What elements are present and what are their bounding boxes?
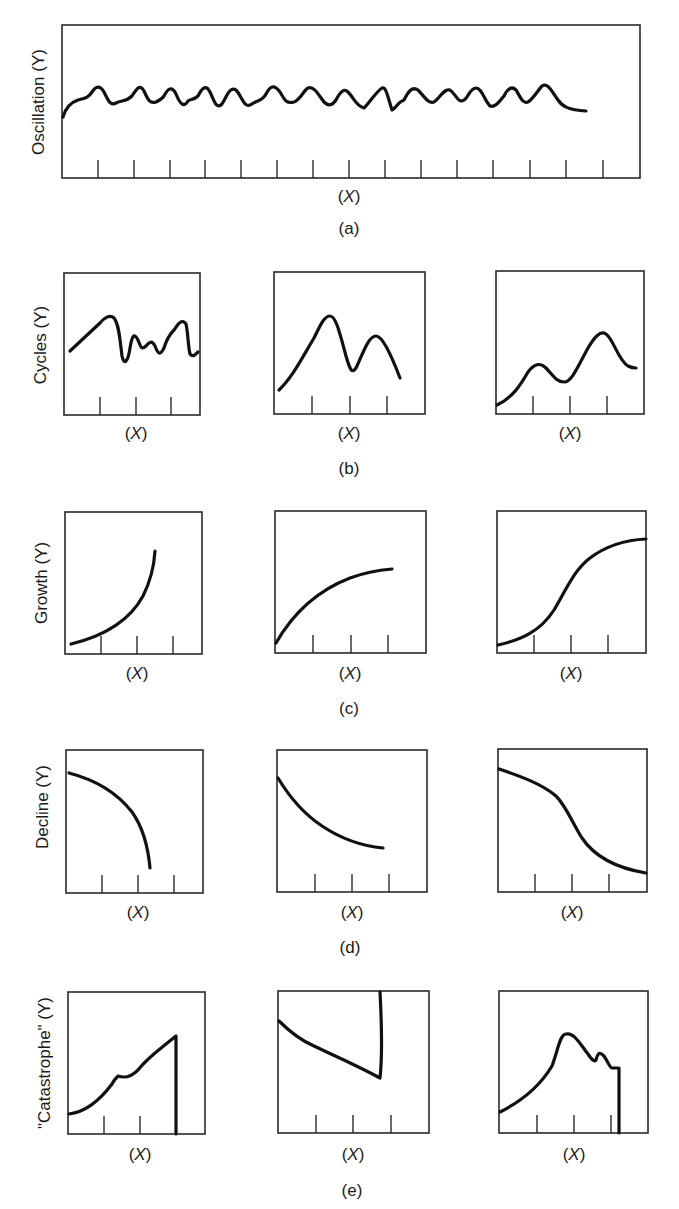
plot-frame bbox=[275, 511, 426, 653]
plot-frame bbox=[68, 992, 205, 1134]
panel-c1-exponential-growth bbox=[65, 512, 202, 654]
oscillation-curve bbox=[63, 85, 586, 117]
y-axis-label-cycles: Cycles (Y) bbox=[31, 306, 50, 384]
row-b: Cycles (Y) (X) (X) (X) (b) bbox=[31, 271, 644, 478]
row-d: Decline (Y) (X) (X) (X) (d) bbox=[33, 749, 647, 957]
plot-frame bbox=[499, 991, 648, 1133]
row-c: Growth (Y) (X) (X) (X) (c) bbox=[32, 511, 646, 718]
x-axis-label: (X) bbox=[560, 664, 583, 683]
cycles-curve-2 bbox=[279, 316, 400, 390]
plot-frame bbox=[496, 271, 644, 414]
plot-frame bbox=[278, 991, 429, 1133]
x-axis-label: (X) bbox=[338, 187, 361, 206]
x-ticks bbox=[98, 160, 603, 178]
row-e: "Catastrophe" (Y) (X) (X) (X) (e) bbox=[35, 991, 648, 1200]
y-axis-label-growth: Growth (Y) bbox=[32, 542, 51, 624]
x-axis-label: (X) bbox=[338, 424, 361, 443]
x-axis-label: (X) bbox=[341, 903, 364, 922]
catastrophe-curve-1 bbox=[69, 1036, 176, 1134]
panel-d3-s-curve-decline bbox=[498, 749, 647, 892]
caption-b: (b) bbox=[339, 459, 360, 478]
panel-b3-two-peaks-rising bbox=[496, 271, 644, 414]
cycles-curve-3 bbox=[497, 333, 636, 405]
panel-d2-decelerating-decline bbox=[277, 750, 427, 892]
caption-d: (d) bbox=[340, 938, 361, 957]
caption-a: (a) bbox=[339, 219, 360, 238]
growth-curve-exponential bbox=[71, 551, 155, 644]
growth-curve-decelerating bbox=[276, 569, 392, 643]
x-axis-label: (X) bbox=[126, 664, 149, 683]
catastrophe-curve-2 bbox=[279, 992, 382, 1078]
growth-curve-logistic bbox=[498, 539, 646, 645]
panel-e1-rise-then-collapse bbox=[68, 992, 205, 1134]
plot-frame bbox=[65, 512, 202, 654]
plot-frame bbox=[277, 750, 427, 892]
panel-e2-decline-then-jump bbox=[278, 991, 429, 1133]
x-axis-label: (X) bbox=[559, 424, 582, 443]
plot-frame bbox=[66, 750, 203, 893]
x-axis-label: (X) bbox=[129, 1145, 152, 1164]
panel-b2-two-peaks bbox=[274, 272, 425, 414]
figure-canvas: Oscillation (Y) (X) bbox=[0, 0, 679, 1209]
panel-b1-irregular-cycles bbox=[64, 273, 200, 415]
caption-c: (c) bbox=[339, 699, 359, 718]
panel-c2-decelerating-growth bbox=[275, 511, 426, 653]
decline-curve-accelerating bbox=[69, 773, 150, 868]
y-axis-label-oscillation: Oscillation (Y) bbox=[29, 49, 48, 155]
x-axis-label: (X) bbox=[339, 664, 362, 683]
x-axis-label: (X) bbox=[561, 903, 584, 922]
x-axis-label: (X) bbox=[342, 1145, 365, 1164]
decline-curve-decelerating bbox=[278, 778, 383, 848]
caption-e: (e) bbox=[342, 1181, 363, 1200]
cycles-curve-1 bbox=[70, 316, 198, 361]
panel-e3-peak-then-collapse bbox=[499, 991, 648, 1133]
x-axis-label: (X) bbox=[127, 903, 150, 922]
x-axis-label: (X) bbox=[125, 424, 148, 443]
panel-c3-s-curve-growth bbox=[497, 511, 646, 653]
row-a: Oscillation (Y) (X) bbox=[29, 25, 640, 238]
y-axis-label-catastrophe: "Catastrophe" (Y) bbox=[35, 997, 54, 1129]
panel-a-oscillation bbox=[62, 25, 640, 178]
panel-d1-accelerating-decline bbox=[66, 750, 203, 893]
plot-frame bbox=[274, 272, 425, 414]
catastrophe-curve-3 bbox=[500, 1034, 619, 1133]
x-axis-label: (X) bbox=[563, 1145, 586, 1164]
decline-curve-logistic bbox=[499, 769, 646, 873]
y-axis-label-decline: Decline (Y) bbox=[33, 765, 52, 849]
